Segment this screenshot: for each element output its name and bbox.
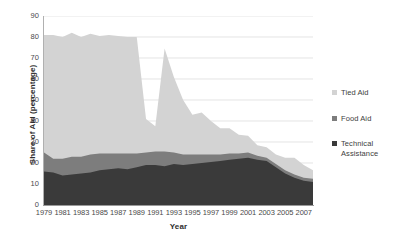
x-tick-label: 2007 bbox=[293, 208, 315, 217]
chart-legend: Tied Aid Food Aid Technical Assistance bbox=[332, 88, 394, 174]
legend-label: Food Aid bbox=[341, 114, 371, 124]
legend-label: Tied Aid bbox=[341, 88, 369, 98]
legend-swatch-icon bbox=[332, 141, 337, 146]
legend-item-technical-assistance: Technical Assistance bbox=[332, 139, 394, 158]
y-tick-label: 90 bbox=[18, 12, 39, 20]
x-axis-title: Year bbox=[44, 222, 313, 231]
legend-swatch-icon bbox=[332, 116, 337, 121]
x-axis-line bbox=[43, 205, 314, 206]
y-axis-title: Share of Aid (percentage) bbox=[28, 35, 37, 195]
y-axis-line bbox=[43, 16, 44, 206]
stacked-area-chart: 0102030405060708090 19791981198319851987… bbox=[0, 0, 394, 247]
legend-item-tied-aid: Tied Aid bbox=[332, 88, 394, 98]
legend-item-food-aid: Food Aid bbox=[332, 114, 394, 124]
x-axis-labels: 1979198119831985198719891991199319951997… bbox=[0, 208, 394, 220]
plot-svg bbox=[44, 16, 313, 205]
legend-swatch-icon bbox=[332, 90, 337, 95]
legend-label: Technical Assistance bbox=[341, 139, 394, 158]
plot-area bbox=[44, 16, 313, 205]
